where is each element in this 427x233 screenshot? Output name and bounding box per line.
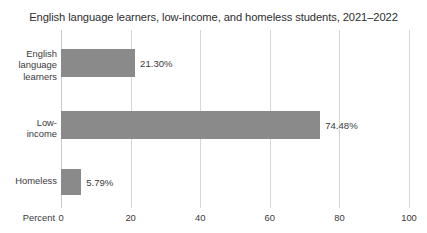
category-label-line: language xyxy=(0,59,57,70)
bar[interactable] xyxy=(61,49,135,77)
category-label-line: income xyxy=(0,128,57,139)
bar-row[interactable]: 21.30% xyxy=(61,49,409,77)
x-axis-ticks: 020406080100 xyxy=(61,212,409,226)
category-label-line: learners xyxy=(0,71,57,82)
plot-area: 21.30%74.48%5.79% xyxy=(61,30,409,208)
x-tick-label-40: 40 xyxy=(195,212,205,223)
x-tick-label-0: 0 xyxy=(58,212,63,223)
chart-title: English language learners, low-income, a… xyxy=(0,11,427,23)
gridline-100 xyxy=(409,30,410,208)
bar-chart: · English language learners, low-income,… xyxy=(0,0,427,233)
clipped-top-artifact: · xyxy=(0,0,427,6)
bar[interactable] xyxy=(61,169,81,195)
bar-value-label: 5.79% xyxy=(86,177,113,188)
bar-row[interactable]: 74.48% xyxy=(61,111,409,139)
bar-row[interactable]: 5.79% xyxy=(61,169,409,195)
x-axis-title: Percent xyxy=(23,212,55,223)
bar-series: 21.30%74.48%5.79% xyxy=(61,30,409,208)
category-axis-labels: EnglishlanguagelearnersLow-incomeHomeles… xyxy=(0,30,57,208)
bar[interactable] xyxy=(61,111,320,139)
x-tick-label-80: 80 xyxy=(334,212,344,223)
category-label: Englishlanguagelearners xyxy=(0,48,57,82)
category-label-line: Homeless xyxy=(0,175,57,186)
category-label: Low-income xyxy=(0,117,57,140)
x-tick-label-20: 20 xyxy=(125,212,135,223)
bar-value-label: 21.30% xyxy=(140,58,173,69)
category-label: Homeless xyxy=(0,175,57,186)
bar-value-label: 74.48% xyxy=(325,120,358,131)
category-label-line: Low- xyxy=(0,117,57,128)
x-tick-label-100: 100 xyxy=(401,212,417,223)
x-tick-label-60: 60 xyxy=(265,212,275,223)
category-label-line: English xyxy=(0,48,57,59)
